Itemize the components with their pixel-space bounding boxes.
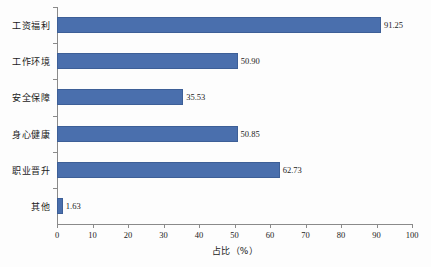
x-axis-tick [377, 224, 378, 228]
y-axis-tick [53, 79, 57, 80]
x-axis-tick-label: 40 [195, 230, 204, 240]
x-axis-title: 占比（%） [57, 244, 413, 257]
bar-value-label: 50.85 [241, 129, 260, 139]
y-axis-tick [53, 43, 57, 44]
category-label: 安全保障 [12, 91, 50, 104]
x-axis-tick-label: 50 [230, 230, 239, 240]
x-axis-tick-label: 60 [266, 230, 275, 240]
bar-value-label: 1.63 [66, 201, 81, 211]
bar-value-label: 50.90 [241, 56, 260, 66]
chart-row: 其他1.63 [57, 188, 412, 224]
bar: 50.90 [57, 53, 238, 69]
y-axis-tick [53, 188, 57, 189]
category-label: 职业晋升 [12, 163, 50, 176]
y-axis-tick [53, 152, 57, 153]
plot-area: 工资福利91.25工作环境50.90安全保障35.53身心健康50.85职业晋升… [57, 7, 412, 224]
bar: 1.63 [57, 198, 63, 214]
x-axis-tick [270, 224, 271, 228]
x-axis-tick [341, 224, 342, 228]
chart-row: 身心健康50.85 [57, 116, 412, 152]
bar: 91.25 [57, 17, 381, 33]
x-axis-tick [93, 224, 94, 228]
category-label: 身心健康 [12, 127, 50, 140]
bar-value-label: 35.53 [186, 92, 205, 102]
x-axis-tick-label: 20 [124, 230, 133, 240]
bar-value-label: 91.25 [384, 20, 403, 30]
bar: 35.53 [57, 89, 183, 105]
bar: 62.73 [57, 162, 280, 178]
chart-row: 安全保障35.53 [57, 79, 412, 115]
x-axis-tick [57, 224, 58, 228]
chart-row: 职业晋升62.73 [57, 152, 412, 188]
x-axis-tick [412, 224, 413, 228]
x-axis-tick-label: 10 [88, 230, 97, 240]
x-axis-tick [128, 224, 129, 228]
bar-value-label: 62.73 [283, 165, 302, 175]
y-axis-tick [53, 7, 57, 8]
y-axis-tick [53, 116, 57, 117]
horizontal-bar-chart: 工资福利91.25工作环境50.90安全保障35.53身心健康50.85职业晋升… [0, 0, 431, 267]
x-axis-tick-label: 100 [406, 230, 419, 240]
x-axis-tick [199, 224, 200, 228]
chart-row: 工资福利91.25 [57, 7, 412, 43]
x-axis-tick-label: 30 [159, 230, 168, 240]
category-label: 其他 [31, 199, 50, 212]
x-axis-tick [306, 224, 307, 228]
x-axis-tick-label: 70 [301, 230, 310, 240]
category-label: 工资福利 [12, 19, 50, 32]
category-label: 工作环境 [12, 55, 50, 68]
x-axis-tick [235, 224, 236, 228]
x-axis-tick-label: 90 [372, 230, 381, 240]
x-axis-tick-label: 80 [337, 230, 346, 240]
chart-row: 工作环境50.90 [57, 43, 412, 79]
x-axis-tick [164, 224, 165, 228]
bar: 50.85 [57, 126, 238, 142]
x-axis-tick-label: 0 [55, 230, 59, 240]
